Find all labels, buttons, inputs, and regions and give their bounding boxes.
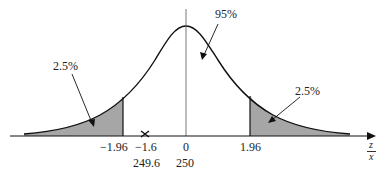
right-tail-region [250, 96, 350, 136]
tick-z-196: 1.96 [240, 141, 261, 153]
normal-curve [24, 26, 350, 134]
right-tail-label: 2.5% [295, 85, 320, 97]
tick-z-0: 0 [183, 141, 189, 153]
tick-x-2496: 249.6 [133, 157, 160, 169]
left-tail-label: 2.5% [53, 60, 78, 72]
tick-z-neg16: −1.6 [135, 141, 157, 153]
axis-label-z: z [369, 140, 373, 150]
arrow-left-tail [72, 74, 92, 123]
tick-x-250: 250 [176, 157, 194, 169]
arrowhead-center-icon [200, 52, 207, 60]
tick-z-neg196: −1.96 [100, 141, 128, 153]
axis-label-x: x [369, 152, 373, 162]
arrow-right-tail [272, 97, 300, 120]
center-label: 95% [215, 8, 237, 20]
normal-distribution-diagram [0, 0, 389, 174]
left-tail-region [24, 97, 123, 136]
